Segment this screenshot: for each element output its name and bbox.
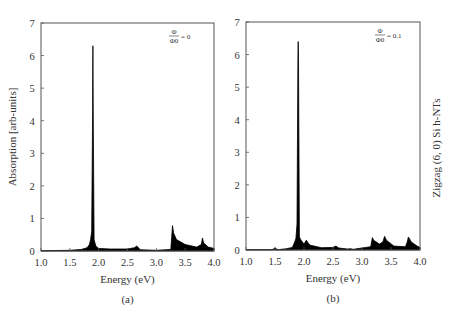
flux-annotation-b: Φ Φ0 = 0.1 (375, 27, 402, 44)
flux-value-b: = 0.1 (387, 32, 402, 40)
y-tick-label: 4 (234, 115, 240, 126)
y-tick-label: 2 (234, 180, 239, 191)
x-tick-label: 2.5 (326, 256, 339, 267)
y-tick-label: 7 (234, 17, 239, 28)
plot-area-b (246, 42, 420, 251)
y-axis-b: 01234567 (234, 17, 249, 256)
x-axis-title-a: Energy (eV) (100, 273, 155, 286)
x-tick-label: 2.0 (92, 257, 105, 268)
plot-frame-a (41, 23, 214, 251)
x-tick-label: 2.5 (121, 257, 134, 268)
y-tick-label: 0 (234, 245, 239, 256)
y-tick-label: 3 (29, 148, 34, 159)
panel-label-a: (a) (121, 293, 134, 306)
y-tick-label: 5 (29, 83, 34, 94)
y-tick-label: 1 (29, 213, 34, 224)
y-tick-label: 5 (234, 82, 239, 93)
y-tick-label: 4 (29, 116, 35, 127)
y-axis-a: 01234567 (29, 18, 44, 257)
x-tick-label: 4.0 (207, 257, 220, 268)
x-tick-label: 3.0 (150, 257, 163, 268)
figure-side-title: Zigzag (6, 0) Si h-NTs (430, 98, 443, 197)
y-tick-label: 6 (29, 51, 34, 62)
chart-panel-b: 01234567 1.01.52.02.53.03.54.0 Energy (e… (234, 17, 426, 305)
y-tick-label: 3 (234, 147, 239, 158)
x-axis-title-b: Energy (eV) (306, 272, 361, 285)
plot-frame-b (246, 22, 420, 250)
y-tick-label: 6 (234, 50, 239, 61)
flux-denominator-a: Φ0 (170, 37, 179, 45)
flux-value-a: = 0 (181, 33, 191, 41)
absorption-spectrum-area (41, 46, 214, 251)
x-tick-label: 3.5 (179, 257, 192, 268)
panel-label-b: (b) (327, 292, 340, 305)
y-tick-label: 2 (29, 181, 34, 192)
flux-numerator-a: Φ (171, 28, 176, 36)
chart-panel-a: 01234567 1.01.52.02.53.03.54.0 Energy (e… (6, 18, 221, 306)
x-tick-label: 1.5 (268, 256, 281, 267)
flux-numerator-b: Φ (377, 27, 382, 35)
plot-area-a (41, 46, 214, 251)
flux-annotation-a: Φ Φ0 = 0 (169, 28, 191, 45)
x-tick-label: 4.0 (413, 256, 426, 267)
figure: 01234567 1.01.52.02.53.03.54.0 Energy (e… (0, 0, 454, 323)
y-tick-label: 7 (29, 18, 34, 29)
y-axis-title-a: Absorption [arb-units] (6, 88, 18, 187)
x-tick-label: 1.0 (34, 257, 47, 268)
y-tick-label: 0 (29, 246, 34, 257)
x-tick-label: 3.5 (384, 256, 397, 267)
flux-denominator-b: Φ0 (376, 36, 385, 44)
x-tick-label: 1.0 (239, 256, 252, 267)
y-tick-label: 1 (234, 212, 239, 223)
x-tick-label: 3.0 (355, 256, 368, 267)
absorption-spectrum-area (246, 42, 420, 251)
x-tick-label: 1.5 (63, 257, 76, 268)
x-tick-label: 2.0 (297, 256, 310, 267)
